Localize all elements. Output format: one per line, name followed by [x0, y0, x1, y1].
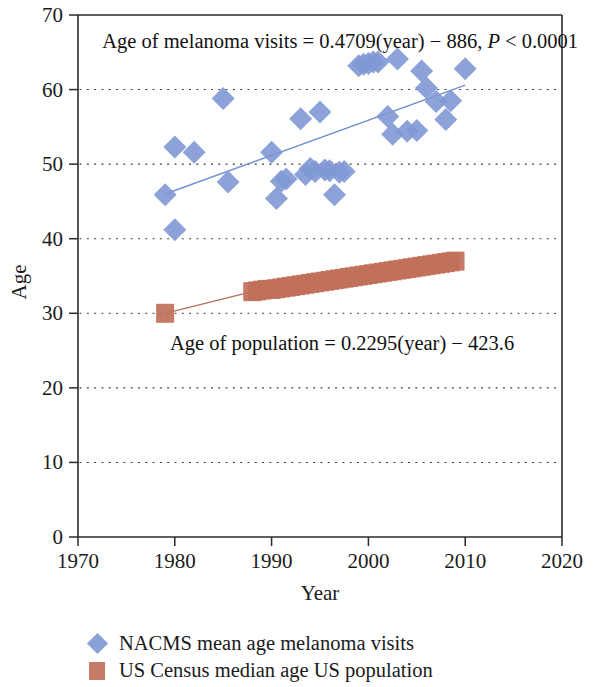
legend-label-nacms: NACMS mean age melanoma visits [119, 632, 414, 655]
melanoma-point [323, 183, 346, 206]
melanoma-regression-annotation: Age of melanoma visits = 0.4709(year) − … [102, 30, 578, 53]
chart-figure: 010203040506070197019801990200020102020 … [0, 0, 605, 687]
y-tick-label-70: 70 [42, 3, 63, 27]
y-tick-label-50: 50 [42, 152, 63, 176]
melanoma-point [309, 100, 332, 123]
melanoma-point [265, 187, 288, 210]
nacms-series [154, 47, 477, 241]
melanoma-point [163, 135, 186, 158]
melanoma-point [410, 59, 433, 82]
legend-label-us-census: US Census median age US population [119, 659, 433, 682]
melanoma-point [183, 141, 206, 164]
y-tick-label-60: 60 [42, 78, 63, 102]
x-tick-label-1970: 1970 [57, 549, 99, 573]
x-tick-label-1980: 1980 [154, 549, 196, 573]
us-census-series [156, 252, 464, 323]
legend-item-us-census: US Census median age US population [86, 657, 433, 684]
x-axis-title: Year [301, 581, 340, 605]
melanoma-point [260, 141, 283, 164]
melanoma-point [163, 218, 186, 241]
melanoma-point [154, 183, 177, 206]
melanoma-point [454, 57, 477, 80]
y-tick-label-0: 0 [53, 525, 64, 549]
x-tick-label-2000: 2000 [347, 549, 389, 573]
y-tick-label-40: 40 [42, 227, 63, 251]
melanoma-point [376, 105, 399, 128]
scatter-plot-canvas: 010203040506070197019801990200020102020 … [0, 0, 605, 625]
melanoma-point [212, 87, 235, 110]
y-axis-title: Age [7, 265, 31, 300]
y-tick-label-10: 10 [42, 450, 63, 474]
x-tick-label-2010: 2010 [444, 549, 486, 573]
diamond-marker-icon [86, 636, 108, 651]
us-census-point [156, 304, 174, 323]
us-census-trendline [165, 292, 252, 314]
chart-legend: NACMS mean age melanoma visits US Census… [86, 630, 433, 684]
x-tick-label-1990: 1990 [251, 549, 293, 573]
y-tick-label-30: 30 [42, 301, 63, 325]
y-tick-label-20: 20 [42, 376, 63, 400]
population-regression-annotation: Age of population = 0.2295(year) − 423.6 [170, 332, 514, 355]
legend-item-nacms: NACMS mean age melanoma visits [86, 630, 433, 657]
us-census-point [447, 252, 465, 271]
melanoma-point [289, 107, 312, 130]
square-marker-icon [86, 662, 108, 680]
x-tick-label-2020: 2020 [541, 549, 583, 573]
